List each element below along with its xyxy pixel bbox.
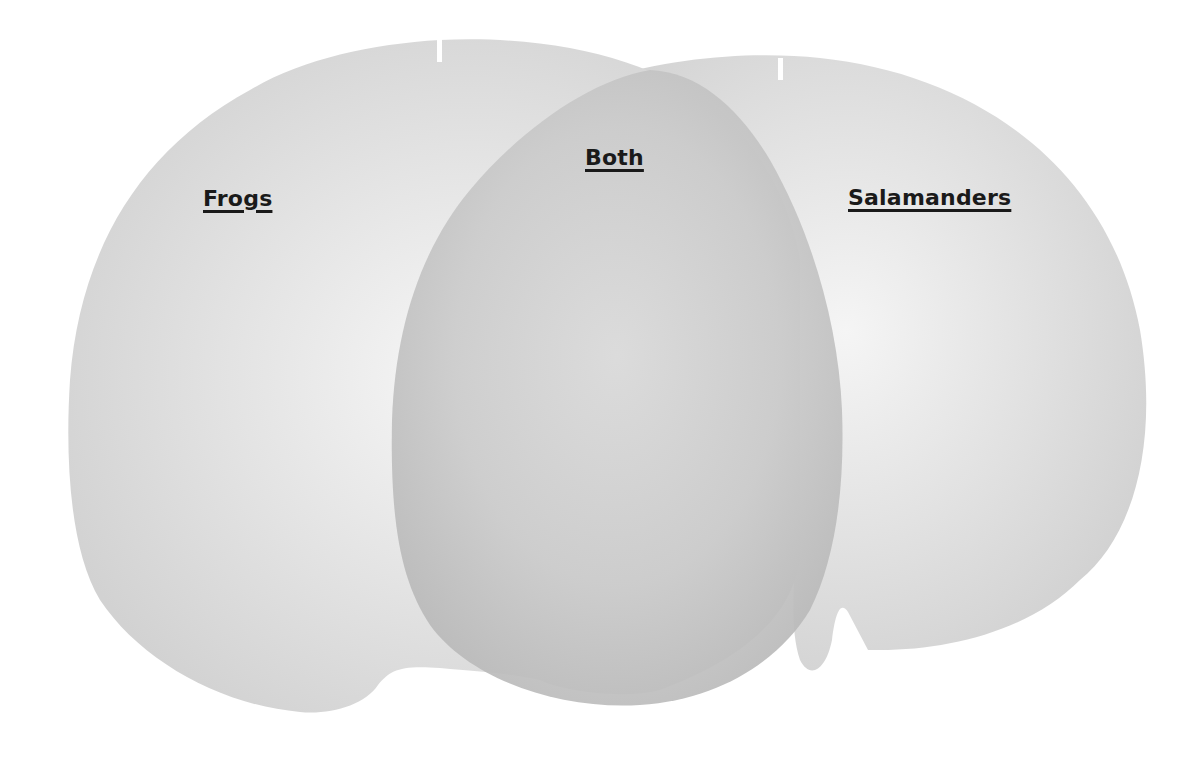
right-notch bbox=[778, 58, 783, 80]
frogs-label: Frogs bbox=[203, 186, 272, 211]
venn-shapes bbox=[0, 0, 1200, 759]
both-label: Both bbox=[585, 145, 644, 170]
left-notch bbox=[437, 36, 442, 62]
salamanders-label: Salamanders bbox=[848, 185, 1011, 210]
venn-diagram: Frogs Both Salamanders bbox=[0, 0, 1200, 759]
